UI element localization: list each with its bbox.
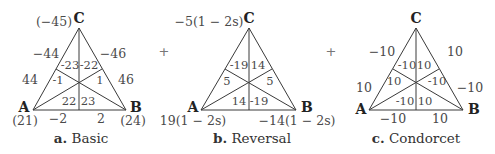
- region-label-mid-left: 5: [223, 76, 230, 88]
- region-label-bottom-right: 10: [418, 96, 433, 108]
- region-label-top-right: 10: [417, 60, 432, 72]
- triangle-reversal: [201, 28, 296, 110]
- region-label-bottom-left: 14: [232, 96, 247, 108]
- edge-label-ab-right: 2: [97, 113, 105, 126]
- caption-reversal: b. Reversal: [213, 132, 291, 146]
- region-label-bottom-left: -10: [396, 96, 415, 108]
- region-label-top-right: 14: [251, 60, 266, 72]
- caption-basic: a. Basic: [54, 132, 109, 146]
- edge-label-bc-top: −46: [100, 48, 126, 61]
- plus-operator-1: +: [159, 44, 170, 59]
- caption-condorcet: c. Condorcet: [372, 132, 461, 146]
- region-label-mid-right: 5: [266, 76, 273, 88]
- vertex-b: B: [468, 102, 480, 116]
- vertex-c: C: [73, 11, 84, 25]
- edge-label-bc-bottom: −10: [457, 82, 483, 95]
- region-label-bottom-left: 22: [62, 96, 77, 108]
- vertex-value-a: (21): [12, 115, 38, 128]
- edge-label-ac-bottom: 10: [356, 82, 372, 95]
- region-label-top-left: -19: [230, 60, 249, 72]
- edge-label-bc-top: 10: [447, 46, 463, 59]
- caption-letter: a.: [54, 130, 67, 146]
- plus-operator-2: +: [326, 44, 337, 59]
- edge-label-ac-top: −10: [369, 46, 395, 59]
- caption-letter: b.: [213, 130, 227, 146]
- region-label-mid-right: 1: [96, 75, 103, 87]
- region-label-bottom-right: 23: [81, 96, 96, 108]
- region-label-top-right: -22: [80, 60, 99, 72]
- caption-text: Condorcet: [389, 130, 460, 146]
- edge-label-ac-bottom: 44: [22, 74, 38, 87]
- vertex-value-b: (24): [120, 115, 146, 128]
- vertex-value-a: 19(1 − 2s): [160, 115, 226, 128]
- vertex-a: A: [356, 102, 367, 116]
- edge-label-bc-bottom: 46: [118, 74, 134, 87]
- caption-text: Basic: [71, 130, 108, 146]
- vertex-value-c: −5(1 − 2s): [175, 16, 244, 29]
- region-label-mid-right: -10: [428, 76, 447, 88]
- edge-label-ab-right: 10: [432, 113, 448, 126]
- region-label-mid-left: 10: [387, 76, 402, 88]
- caption-letter: c.: [372, 130, 385, 146]
- vertex-c: C: [243, 11, 254, 25]
- vertex-c: C: [410, 11, 421, 25]
- edge-label-ab-left: −2: [49, 113, 67, 126]
- caption-text: Reversal: [231, 130, 291, 146]
- region-label-top-left: -10: [398, 60, 417, 72]
- region-label-bottom-right: -19: [250, 96, 269, 108]
- vertex-value-c: (−45): [36, 16, 72, 29]
- edge-label-ac-top: −44: [33, 48, 59, 61]
- region-label-mid-left: -1: [52, 75, 63, 87]
- edge-label-ab-left: −10: [380, 113, 406, 126]
- vertex-value-b: −14(1 − 2s): [259, 115, 336, 128]
- region-label-top-left: -23: [61, 60, 80, 72]
